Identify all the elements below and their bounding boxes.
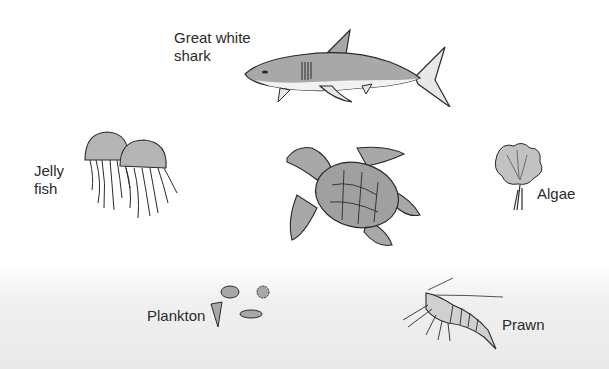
plankton-icon <box>208 282 288 332</box>
great-white-shark-illustration <box>240 22 460 107</box>
sea-turtle-illustration <box>282 140 422 255</box>
plankton-illustration <box>208 282 288 332</box>
shark-icon <box>240 22 460 107</box>
jellyfish-label: Jelly fish <box>34 162 64 198</box>
jellyfish-illustration <box>82 128 187 223</box>
prawn-icon <box>398 275 508 355</box>
prawn-illustration <box>398 275 508 355</box>
jellyfish-icon <box>82 128 187 223</box>
sea-turtle-icon <box>282 140 422 255</box>
algae-label: Algae <box>537 185 575 203</box>
plankton-label: Plankton <box>147 307 205 325</box>
prawn-label: Prawn <box>502 316 545 334</box>
